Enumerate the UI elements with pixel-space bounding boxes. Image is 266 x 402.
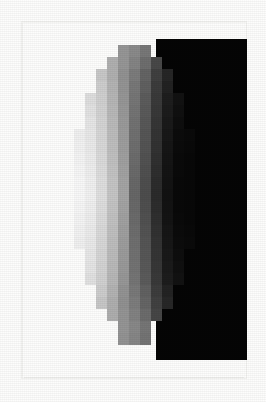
raster-cell	[107, 249, 118, 261]
raster-cell	[118, 213, 129, 225]
raster-cell	[140, 249, 151, 261]
raster-cell	[96, 225, 107, 237]
raster-cell	[151, 105, 162, 117]
raster-cell	[96, 237, 107, 249]
raster-cell	[85, 177, 96, 189]
raster-cell	[162, 105, 173, 117]
raster-cell	[140, 237, 151, 249]
raster-cell	[107, 261, 118, 273]
raster-cell	[129, 81, 140, 93]
raster-cell	[129, 309, 140, 321]
raster-cell	[173, 93, 184, 105]
raster-cell	[107, 237, 118, 249]
raster-cell	[129, 117, 140, 129]
raster-cell	[118, 249, 129, 261]
raster-cell	[129, 225, 140, 237]
raster-cell	[162, 153, 173, 165]
raster-cell	[85, 93, 96, 105]
raster-cell	[118, 81, 129, 93]
raster-cell	[140, 93, 151, 105]
raster-cell	[107, 225, 118, 237]
raster-cell	[173, 141, 184, 153]
raster-cell	[129, 321, 140, 333]
raster-cell	[107, 165, 118, 177]
raster-cell	[151, 81, 162, 93]
raster-cell	[85, 201, 96, 213]
figure-page: Pixelated shaded sphere on black backgro…	[0, 0, 266, 402]
raster-cell	[85, 213, 96, 225]
raster-cell	[173, 213, 184, 225]
raster-cell	[85, 225, 96, 237]
raster-cell	[107, 285, 118, 297]
raster-cell	[129, 189, 140, 201]
raster-cell	[140, 129, 151, 141]
raster-cell	[173, 105, 184, 117]
raster-cell	[129, 249, 140, 261]
raster-cell	[118, 285, 129, 297]
raster-cell	[118, 201, 129, 213]
raster-cell	[107, 141, 118, 153]
pixelated-sphere-raster	[0, 0, 266, 402]
raster-cell	[107, 93, 118, 105]
raster-cell	[173, 249, 184, 261]
raster-cell	[96, 297, 107, 309]
raster-cell	[140, 81, 151, 93]
raster-cell	[85, 273, 96, 285]
raster-cell	[151, 297, 162, 309]
raster-cell	[129, 333, 140, 345]
raster-cell	[140, 69, 151, 81]
raster-cell	[118, 117, 129, 129]
raster-cell	[151, 189, 162, 201]
raster-cell	[107, 309, 118, 321]
raster-cell	[140, 189, 151, 201]
raster-cell	[107, 201, 118, 213]
raster-cell	[162, 261, 173, 273]
raster-cell	[151, 309, 162, 321]
raster-cell	[129, 69, 140, 81]
raster-cell	[118, 141, 129, 153]
raster-cell	[162, 297, 173, 309]
raster-cell	[140, 201, 151, 213]
raster-cell	[107, 117, 118, 129]
raster-cell	[140, 261, 151, 273]
raster-cell	[96, 69, 107, 81]
raster-cell	[162, 189, 173, 201]
raster-cell	[173, 117, 184, 129]
raster-cell	[140, 273, 151, 285]
raster-cell	[151, 141, 162, 153]
raster-cell	[107, 57, 118, 69]
raster-cell	[151, 165, 162, 177]
raster-cell	[162, 177, 173, 189]
raster-cell	[85, 105, 96, 117]
raster-cell	[74, 201, 85, 213]
raster-cell	[85, 249, 96, 261]
raster-cell	[151, 117, 162, 129]
raster-cell	[173, 273, 184, 285]
raster-cell	[151, 129, 162, 141]
raster-cell	[118, 105, 129, 117]
raster-cell	[151, 273, 162, 285]
raster-cell	[118, 309, 129, 321]
raster-cell	[85, 129, 96, 141]
raster-cell	[96, 273, 107, 285]
raster-cell	[184, 201, 195, 213]
raster-cell	[173, 201, 184, 213]
raster-cell	[96, 165, 107, 177]
raster-cell	[184, 213, 195, 225]
raster-cell	[118, 177, 129, 189]
raster-cell	[129, 201, 140, 213]
raster-cell	[129, 213, 140, 225]
raster-cell	[140, 105, 151, 117]
raster-cell	[129, 285, 140, 297]
raster-cell	[129, 93, 140, 105]
raster-cell	[151, 69, 162, 81]
raster-cell	[162, 249, 173, 261]
raster-cell	[107, 189, 118, 201]
raster-cell	[129, 177, 140, 189]
raster-cell	[85, 117, 96, 129]
raster-cell	[85, 153, 96, 165]
raster-cell	[162, 69, 173, 81]
raster-cell	[118, 273, 129, 285]
raster-cell	[96, 177, 107, 189]
raster-cell	[140, 297, 151, 309]
